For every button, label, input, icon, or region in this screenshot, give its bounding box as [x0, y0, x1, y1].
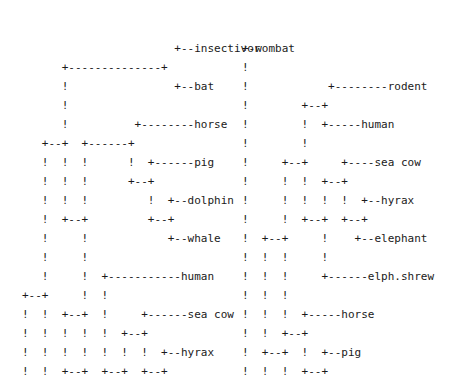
- right-tree-panel: +-wombat ! ! +--------rodent ! +--+ ! ! …: [242, 1, 434, 386]
- left-tree-panel: +--insectivor +--------------+ ! +--bat …: [22, 1, 260, 386]
- ascii-tree-canvas: +--insectivor +--------------+ ! +--bat …: [0, 0, 460, 386]
- left-tree-text: +--insectivor +--------------+ ! +--bat …: [22, 39, 260, 386]
- right-tree-text: +-wombat ! ! +--------rodent ! +--+ ! ! …: [242, 39, 434, 386]
